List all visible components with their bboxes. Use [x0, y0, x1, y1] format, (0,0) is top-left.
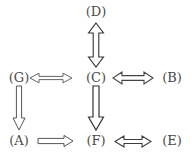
- node-A: (A): [0, 134, 38, 147]
- arrow-shape-A-F: [38, 135, 73, 146]
- arrow-shape-G-C: [30, 73, 72, 83]
- arrow-shape-D-C: [89, 23, 104, 67]
- arrow-shape-C-B: [113, 72, 153, 84]
- node-D-label: (D): [86, 4, 107, 19]
- node-D: (D): [0, 5, 192, 18]
- node-E-label: (E): [162, 133, 182, 148]
- node-F-label: (F): [86, 133, 105, 148]
- diagram-canvas: (D) (G) (C) (B) (A) (F) (E): [0, 0, 192, 156]
- node-B: (B): [153, 71, 191, 84]
- node-B-label: (B): [162, 70, 182, 85]
- arrow-shape-G-A: [13, 86, 25, 130]
- arrow-shape-F-E: [115, 136, 151, 147]
- node-A-label: (A): [9, 133, 29, 148]
- edge-C-B: [112, 70, 154, 86]
- arrow-shape-C-F: [89, 86, 104, 130]
- edge-C-F: [87, 86, 105, 131]
- node-C-label: (C): [86, 70, 106, 85]
- node-C: (C): [77, 71, 115, 84]
- edge-F-E: [114, 134, 152, 149]
- edge-D-C: [82, 22, 110, 68]
- edge-G-C: [29, 71, 73, 85]
- node-E: (E): [153, 134, 191, 147]
- node-G-label: (G): [9, 70, 30, 85]
- edge-G-A: [11, 86, 27, 131]
- edge-A-F: [38, 134, 74, 148]
- node-F: (F): [77, 134, 115, 147]
